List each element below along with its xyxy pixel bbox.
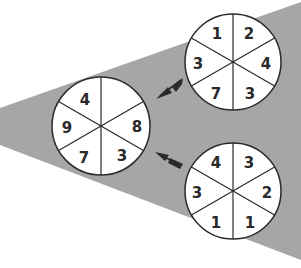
segment-label: 3 bbox=[193, 55, 203, 73]
segment-label: 9 bbox=[62, 119, 72, 137]
segment-label: 4 bbox=[80, 91, 90, 109]
segment-label: 4 bbox=[261, 55, 271, 73]
bottom-source-wheel: 4 3 2 1 1 3 bbox=[185, 143, 281, 239]
segment-label: 1 bbox=[211, 214, 221, 232]
segment-label: 3 bbox=[244, 154, 254, 172]
segment-label: 1 bbox=[245, 214, 255, 232]
segment-label: 3 bbox=[192, 184, 202, 202]
segment-label: 2 bbox=[262, 184, 272, 202]
diagram-svg: 4 8 3 7 9 1 2 4 3 7 3 4 3 2 bbox=[0, 0, 301, 268]
top-source-wheel: 1 2 4 3 7 3 bbox=[185, 14, 281, 110]
segment-label: 7 bbox=[79, 149, 89, 167]
segment-label: 3 bbox=[117, 147, 127, 165]
segment-label: 2 bbox=[244, 25, 254, 43]
segment-label: 1 bbox=[212, 25, 222, 43]
segment-label: 7 bbox=[211, 85, 221, 103]
segment-label: 8 bbox=[132, 118, 142, 136]
diagram-canvas: 4 8 3 7 9 1 2 4 3 7 3 4 3 2 bbox=[0, 0, 301, 268]
target-wheel: 4 8 3 7 9 bbox=[52, 77, 150, 175]
segment-label: 3 bbox=[245, 85, 255, 103]
segment-label: 4 bbox=[211, 154, 221, 172]
